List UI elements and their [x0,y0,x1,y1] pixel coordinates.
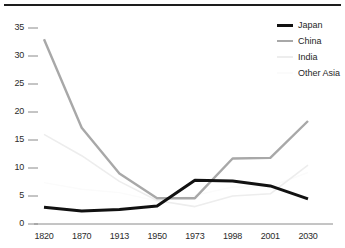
legend-item-india: India [277,50,345,66]
x-axis-label-1913: 1913 [102,231,136,241]
series-line-china [44,39,308,198]
legend-label-china: China [298,34,322,48]
y-axis-label-30: 30 [4,50,24,60]
y-axis-label-0: 0 [4,218,24,228]
y-axis-label-10: 10 [4,162,24,172]
x-axis-label-1950: 1950 [140,231,174,241]
x-axis-label-1998: 1998 [216,231,250,241]
legend-label-india: India [298,50,318,64]
series-paths [44,39,308,211]
chart-legend: Japan China India Other Asia [277,18,345,82]
legend-item-japan: Japan [277,18,345,34]
y-axis-label-35: 35 [4,22,24,32]
x-axis-label-2001: 2001 [253,231,287,241]
series-line-india [44,134,308,206]
legend-item-china: China [277,34,345,50]
y-axis-label-25: 25 [4,78,24,88]
x-axis-label-1820: 1820 [27,231,61,241]
y-axis-label-20: 20 [4,106,24,116]
x-axis-label-1973: 1973 [178,231,212,241]
legend-label-other-asia: Other Asia [298,66,340,80]
x-axis-label-1870: 1870 [65,231,99,241]
legend-label-japan: Japan [298,18,323,32]
legend-swatch-other-asia [277,72,293,74]
chart-figure: 35302520151050 1820187019131950197319982… [0,0,345,248]
x-axis-label-2030: 2030 [291,231,325,241]
y-axis-label-5: 5 [4,190,24,200]
legend-swatch-china [277,40,293,42]
legend-swatch-india [277,56,293,58]
legend-item-other-asia: Other Asia [277,66,345,82]
legend-swatch-japan [277,24,293,27]
y-axis-label-15: 15 [4,134,24,144]
series-line-japan [44,180,308,211]
y-axis-ticks [28,28,38,224]
